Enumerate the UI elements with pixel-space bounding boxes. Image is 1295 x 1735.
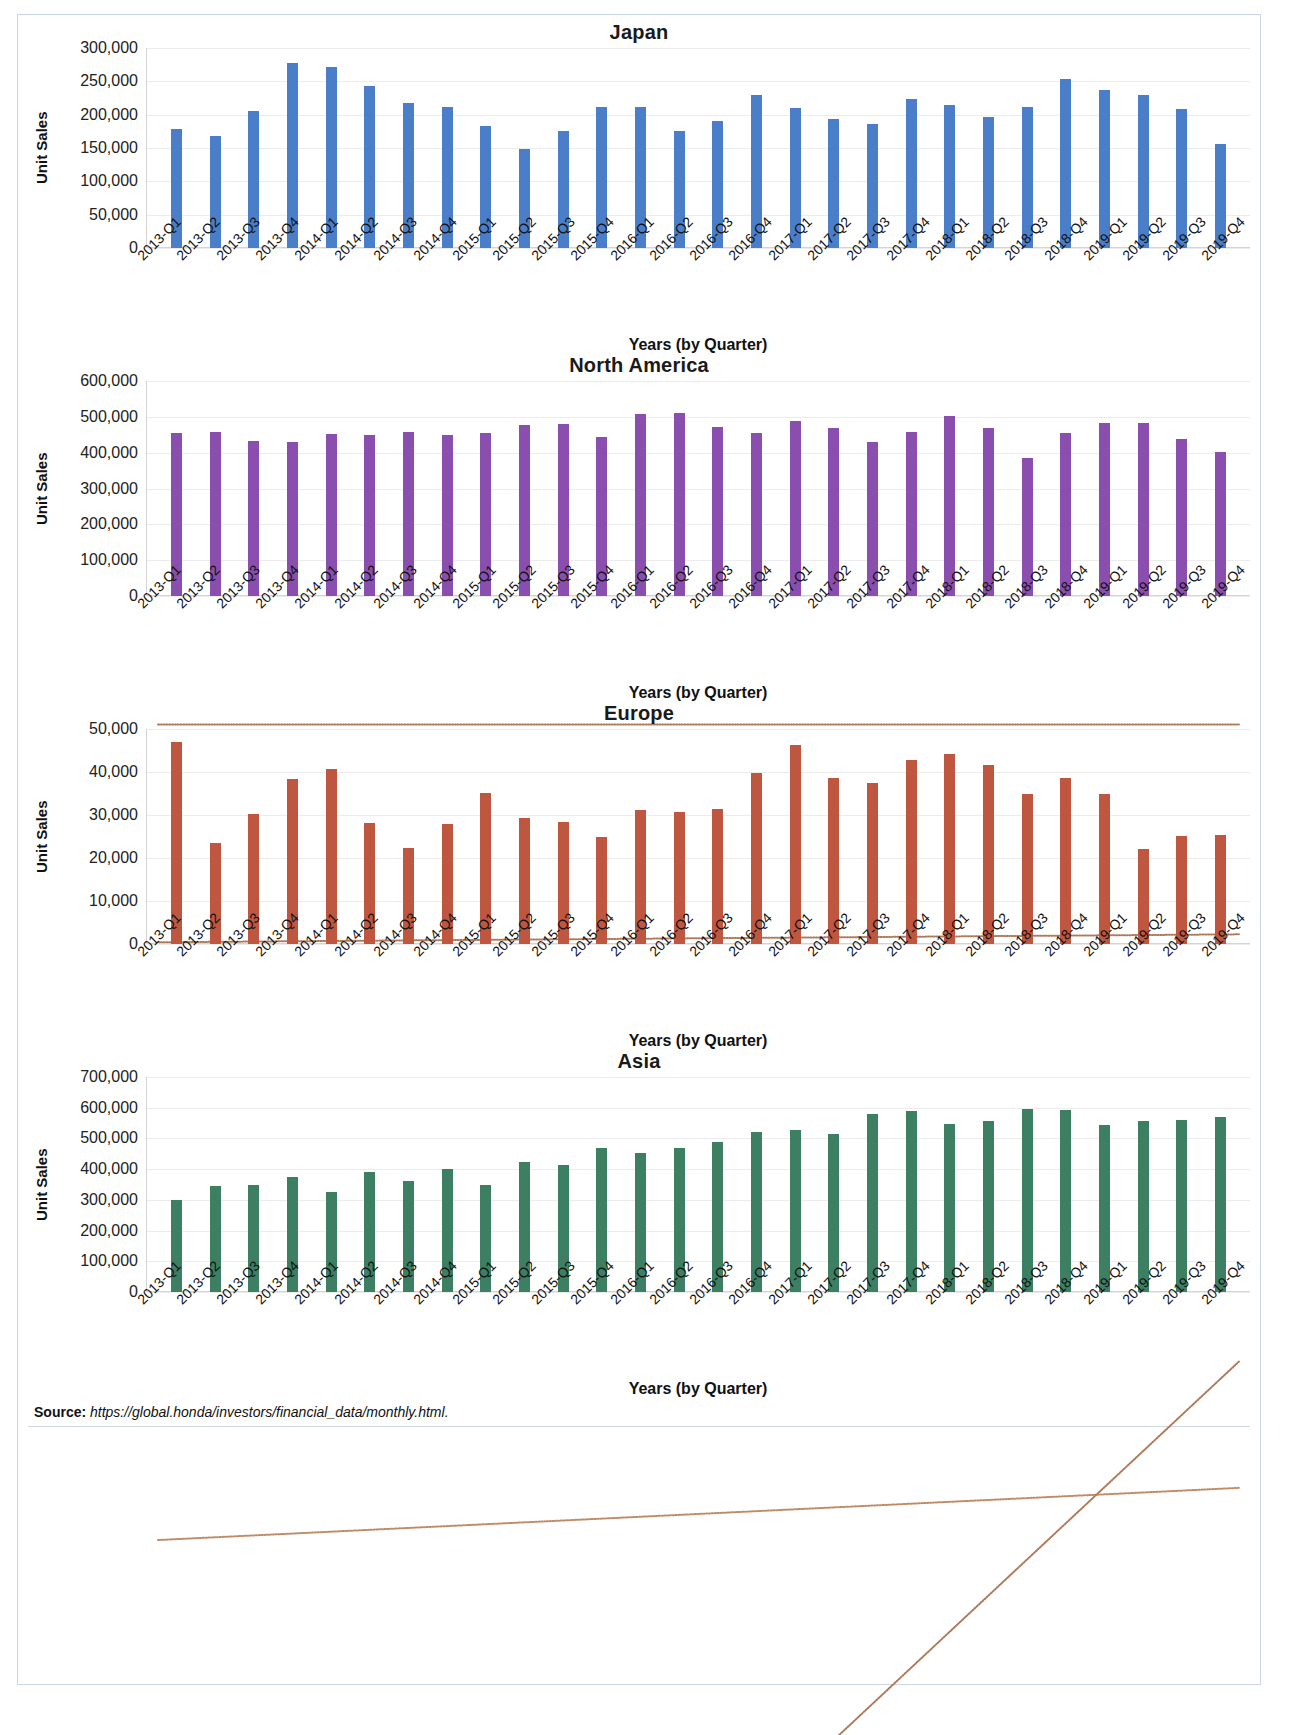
bar[interactable] [1215, 1117, 1226, 1292]
bar-slot [196, 729, 235, 944]
bar-slot [621, 381, 660, 596]
y-tick-label: 500,000 [80, 408, 138, 426]
bar-slot [814, 729, 853, 944]
y-tick-label: 300,000 [80, 480, 138, 498]
bar-group [147, 729, 1250, 944]
bar-slot [196, 381, 235, 596]
bar-slot [660, 381, 699, 596]
document-page: JapanUnit Sales050,000100,000150,000200,… [17, 14, 1261, 1685]
charts-container: JapanUnit Sales050,000100,000150,000200,… [28, 21, 1250, 1398]
bar-slot [196, 1077, 235, 1292]
bar-slot [737, 729, 776, 944]
y-tick-label: 400,000 [80, 444, 138, 462]
bar-group [147, 381, 1250, 596]
source-label: Source: [34, 1404, 86, 1420]
bar-slot [698, 729, 737, 944]
bar-slot [814, 1077, 853, 1292]
bar-slot [853, 381, 892, 596]
plot-area [146, 1077, 1250, 1292]
bar-slot [737, 48, 776, 248]
footer-divider [28, 1426, 1250, 1427]
bar-slot [853, 1077, 892, 1292]
y-tick-label: 300,000 [80, 39, 138, 57]
x-axis-labels: 2013-Q12013-Q22013-Q32013-Q42014-Q12014-… [146, 248, 1250, 334]
bar[interactable] [1176, 1120, 1187, 1292]
bar-slot [621, 729, 660, 944]
y-tick-label: 300,000 [80, 1191, 138, 1209]
y-tick-label: 600,000 [80, 1099, 138, 1117]
x-axis-title: Years (by Quarter) [146, 336, 1250, 354]
y-tick-label: 200,000 [80, 515, 138, 533]
y-tick-label: 50,000 [89, 720, 138, 738]
bar-slot [698, 381, 737, 596]
bar-slot [698, 1077, 737, 1292]
plot-area [146, 729, 1250, 944]
bar[interactable] [1138, 423, 1149, 596]
y-tick-label: 100,000 [80, 172, 138, 190]
x-axis-labels: 2013-Q12013-Q22013-Q32013-Q42014-Q12014-… [146, 596, 1250, 682]
y-axis-ticks: 010,00020,00030,00040,00050,000 [54, 729, 146, 944]
bar-slot [157, 381, 196, 596]
x-axis-title: Years (by Quarter) [146, 1032, 1250, 1050]
chart-panel-asia: AsiaUnit Sales0100,000200,000300,000400,… [28, 1050, 1250, 1398]
y-axis-label: Unit Sales [28, 381, 54, 596]
y-tick-label: 20,000 [89, 849, 138, 867]
y-axis-label: Unit Sales [28, 1077, 54, 1292]
bar-slot [776, 729, 815, 944]
y-tick-label: 400,000 [80, 1160, 138, 1178]
chart-title: Europe [28, 702, 1250, 725]
x-axis-title: Years (by Quarter) [146, 684, 1250, 702]
y-tick-label: 250,000 [80, 72, 138, 90]
y-tick-label: 200,000 [80, 1222, 138, 1240]
bar-slot [814, 381, 853, 596]
y-tick-label: 200,000 [80, 106, 138, 124]
y-axis-ticks: 0100,000200,000300,000400,000500,000600,… [54, 381, 146, 596]
bar-slot [737, 381, 776, 596]
bar-slot [660, 1077, 699, 1292]
bar-slot [157, 729, 196, 944]
y-tick-label: 150,000 [80, 139, 138, 157]
chart-panel-japan: JapanUnit Sales050,000100,000150,000200,… [28, 21, 1250, 354]
y-tick-label: 50,000 [89, 206, 138, 224]
x-axis-title: Years (by Quarter) [146, 1380, 1250, 1398]
y-tick-label: 700,000 [80, 1068, 138, 1086]
chart-title: Japan [28, 21, 1250, 44]
chart-title: Asia [28, 1050, 1250, 1073]
y-tick-label: 500,000 [80, 1129, 138, 1147]
bar-slot [737, 1077, 776, 1292]
bar-group [147, 1077, 1250, 1292]
y-axis-label: Unit Sales [28, 48, 54, 248]
plot-area [146, 381, 1250, 596]
bar[interactable] [1060, 1110, 1071, 1292]
y-tick-label: 600,000 [80, 372, 138, 390]
x-axis-labels: 2013-Q12013-Q22013-Q32013-Q42014-Q12014-… [146, 944, 1250, 1030]
y-tick-label: 40,000 [89, 763, 138, 781]
y-axis-label: Unit Sales [28, 729, 54, 944]
chart-panel-north-america: North AmericaUnit Sales0100,000200,00030… [28, 354, 1250, 702]
chart-title: North America [28, 354, 1250, 377]
bar-slot [698, 48, 737, 248]
x-axis-labels: 2013-Q12013-Q22013-Q32013-Q42014-Q12014-… [146, 1292, 1250, 1378]
bar-slot [853, 729, 892, 944]
source-url: https://global.honda/investors/financial… [90, 1404, 449, 1420]
y-tick-label: 10,000 [89, 892, 138, 910]
bar-slot [660, 729, 699, 944]
bar-slot [157, 1077, 196, 1292]
y-axis-ticks: 0100,000200,000300,000400,000500,000600,… [54, 1077, 146, 1292]
y-tick-label: 30,000 [89, 806, 138, 824]
chart-panel-europe: EuropeUnit Sales010,00020,00030,00040,00… [28, 702, 1250, 1050]
y-axis-ticks: 050,000100,000150,000200,000250,000300,0… [54, 48, 146, 248]
y-tick-label: 100,000 [80, 1252, 138, 1270]
bar-slot [776, 381, 815, 596]
y-tick-label: 100,000 [80, 551, 138, 569]
source-line: Source: https://global.honda/investors/f… [34, 1404, 1250, 1420]
bar-slot [776, 1077, 815, 1292]
bar-slot [621, 1077, 660, 1292]
